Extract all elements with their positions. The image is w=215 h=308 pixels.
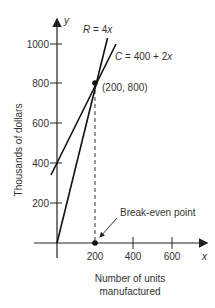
y-axis-symbol: y	[63, 15, 70, 26]
x-tick-200: 200	[87, 251, 104, 262]
y-tick-800: 800	[32, 78, 49, 89]
y-tick-1000: 1000	[27, 39, 50, 50]
break-even-arrow	[100, 218, 117, 237]
y-tick-600: 600	[32, 118, 49, 129]
x-axis-label-line2: manufactured	[99, 286, 160, 297]
x-axis-symbol: x	[201, 251, 208, 262]
x-axis-label-line1: Number of units	[95, 273, 166, 284]
x-tick-400: 400	[125, 251, 142, 262]
break-even-chart: 1000 800 600 400 200 200 400 600 y x Tho…	[0, 0, 215, 308]
revenue-line	[57, 38, 108, 243]
y-tick-200: 200	[32, 198, 49, 209]
intersection-label: (200, 800)	[102, 82, 148, 93]
cost-line	[51, 44, 116, 175]
break-even-point	[92, 240, 98, 246]
cost-equation-label: C = 400 + 2x	[115, 51, 173, 62]
y-tick-400: 400	[32, 158, 49, 169]
intersection-point	[92, 80, 98, 86]
y-axis-label: Thousands of dollars	[13, 104, 24, 197]
y-ticks	[50, 44, 62, 203]
x-tick-600: 600	[164, 251, 181, 262]
break-even-label: Break-even point	[120, 207, 196, 218]
revenue-equation-label: R = 4x	[83, 24, 113, 35]
